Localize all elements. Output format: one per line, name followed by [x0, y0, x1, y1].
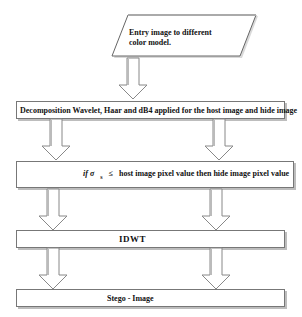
- down-arrow-icon: [204, 119, 236, 161]
- down-arrow-icon: [41, 119, 73, 161]
- stego-image-box: Stego - Image: [16, 289, 285, 307]
- down-arrow-icon: [38, 189, 70, 231]
- start-label: Entry image to different color model.: [129, 28, 212, 48]
- condition-text: host image pixel value then hide image p…: [119, 169, 289, 178]
- down-arrow-icon: [201, 248, 233, 290]
- start-label-line1: Entry image to different: [129, 28, 212, 38]
- sigma-symbol: if σ: [83, 169, 94, 178]
- start-label-line2: color model.: [129, 38, 212, 48]
- decomposition-label: Decomposition Wavelet, Haar and dB4 appl…: [20, 106, 297, 115]
- sigma-subscript: s: [100, 174, 102, 180]
- down-arrow-icon: [38, 248, 70, 290]
- down-arrow-icon: [201, 189, 233, 231]
- down-arrow-icon: [118, 58, 150, 100]
- condition-box: if σ s ≤ host image pixel value then hid…: [16, 161, 294, 188]
- idwt-box: IDWT: [16, 230, 285, 248]
- idwt-label: IDWT: [119, 234, 146, 244]
- leq-operator: ≤: [109, 169, 113, 178]
- stego-image-label: Stego - Image: [107, 294, 154, 303]
- decomposition-box: Decomposition Wavelet, Haar and dB4 appl…: [16, 101, 285, 119]
- condition-label: if σ s ≤ host image pixel value then hid…: [83, 169, 289, 180]
